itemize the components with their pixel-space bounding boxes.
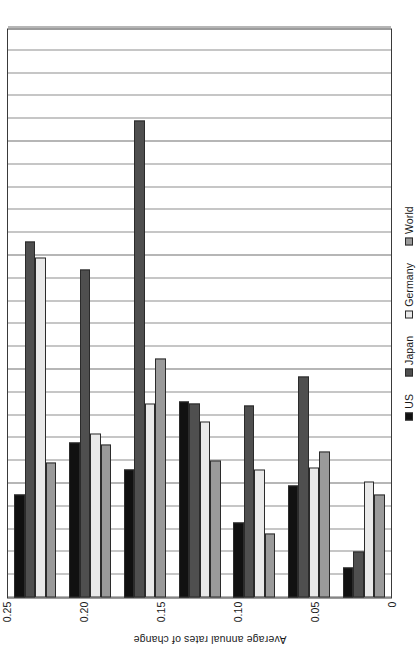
bar-germany <box>35 257 46 597</box>
bar-row <box>288 29 299 597</box>
plot-area <box>7 28 392 598</box>
bar-us <box>179 401 190 597</box>
bar-world <box>155 358 166 597</box>
bar-world <box>319 451 330 597</box>
bar-us <box>288 485 299 597</box>
bar-japan <box>25 241 36 597</box>
bar-row <box>319 29 330 597</box>
bar-row <box>25 29 36 597</box>
bar-chart-figure: Average annual rates of change 0.250.200… <box>0 0 420 647</box>
bar-row <box>69 29 80 597</box>
y-axis-tick-label: 0 <box>386 601 398 607</box>
y-axis-tick-label: 0.20 <box>78 601 90 622</box>
bar-row <box>254 29 265 597</box>
chart-legend: USJapanGermanyWorld <box>400 28 418 598</box>
bar-row <box>14 29 25 597</box>
bar-row <box>353 29 364 597</box>
bar-germany <box>90 433 101 597</box>
bar-group <box>117 29 172 597</box>
bar-row <box>210 29 221 597</box>
bar-group <box>8 29 63 597</box>
y-axis-tick-labels: 0.250.200.150.100.050 <box>0 601 420 629</box>
legend-item-world[interactable]: World <box>403 206 415 246</box>
bar-japan <box>244 405 255 597</box>
legend-label: Germany <box>403 262 415 306</box>
gridline-major <box>8 26 391 27</box>
bar-row <box>35 29 46 597</box>
bar-row <box>90 29 101 597</box>
bar-japan <box>353 551 364 597</box>
chart-screenshot: Average annual rates of change 0.250.200… <box>0 0 420 647</box>
bar-germany <box>254 469 265 597</box>
bar-us <box>14 494 25 597</box>
bar-germany <box>145 403 156 597</box>
bar-groups <box>8 29 391 597</box>
y-axis-tick-label: 0.15 <box>155 601 167 622</box>
bar-world <box>374 494 385 597</box>
bar-row <box>134 29 145 597</box>
bar-us <box>343 567 354 597</box>
y-axis-tick-label: 0.25 <box>1 601 13 622</box>
bar-row <box>374 29 385 597</box>
bar-us <box>124 469 135 597</box>
legend-item-japan[interactable]: Japan <box>403 335 415 376</box>
bar-world <box>210 460 221 597</box>
bar-row <box>244 29 255 597</box>
bar-row <box>265 29 276 597</box>
bar-row <box>124 29 135 597</box>
bar-row <box>179 29 190 597</box>
legend-label: World <box>403 206 415 234</box>
bar-group <box>63 29 118 597</box>
y-axis-tick-label: 0.10 <box>232 601 244 622</box>
bar-row <box>200 29 211 597</box>
legend-swatch-icon <box>405 310 413 318</box>
bar-row <box>364 29 375 597</box>
legend-item-germany[interactable]: Germany <box>403 262 415 318</box>
bar-world <box>265 533 276 597</box>
legend-item-us[interactable]: US <box>403 393 415 420</box>
legend-swatch-icon <box>405 368 413 376</box>
bar-group <box>336 29 391 597</box>
bar-japan <box>298 376 309 597</box>
bar-germany <box>200 421 211 597</box>
bar-row <box>189 29 200 597</box>
bar-row <box>155 29 166 597</box>
bar-row <box>233 29 244 597</box>
legend-swatch-icon <box>405 412 413 420</box>
y-axis-tick-label: 0.05 <box>309 601 321 622</box>
bar-row <box>145 29 156 597</box>
bar-world <box>101 444 112 597</box>
bar-row <box>309 29 320 597</box>
y-axis-title: Average annual rates of change <box>0 631 420 647</box>
bar-group <box>172 29 227 597</box>
bar-japan <box>189 403 200 597</box>
bar-japan <box>80 269 91 597</box>
bar-world <box>46 462 57 597</box>
bar-row <box>298 29 309 597</box>
bar-group <box>227 29 282 597</box>
legend-label: US <box>403 393 415 408</box>
legend-label: Japan <box>403 335 415 364</box>
bar-germany <box>364 481 375 597</box>
bar-japan <box>134 120 145 597</box>
bar-row <box>80 29 91 597</box>
bar-row <box>46 29 57 597</box>
bar-group <box>282 29 337 597</box>
bar-us <box>233 522 244 597</box>
bar-us <box>69 442 80 597</box>
legend-swatch-icon <box>405 237 413 245</box>
bar-germany <box>309 467 320 597</box>
bar-row <box>101 29 112 597</box>
bar-row <box>343 29 354 597</box>
